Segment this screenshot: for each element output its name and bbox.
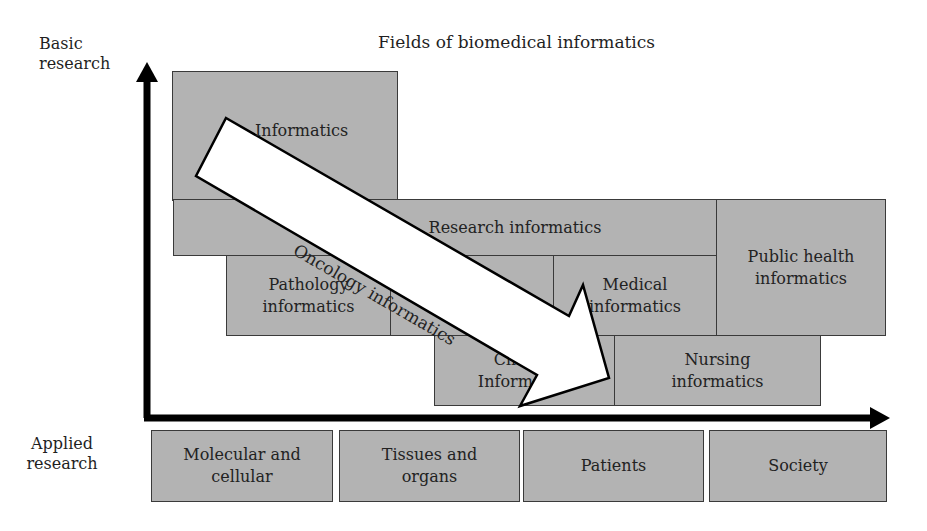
oncology-arrow-shape bbox=[196, 118, 609, 406]
diagram-graphics bbox=[0, 0, 927, 531]
axes bbox=[136, 62, 890, 429]
axis-arrow-up-icon bbox=[136, 62, 158, 82]
informatics-label: Informatics bbox=[255, 121, 348, 140]
axis-arrow-right-icon bbox=[870, 407, 890, 429]
